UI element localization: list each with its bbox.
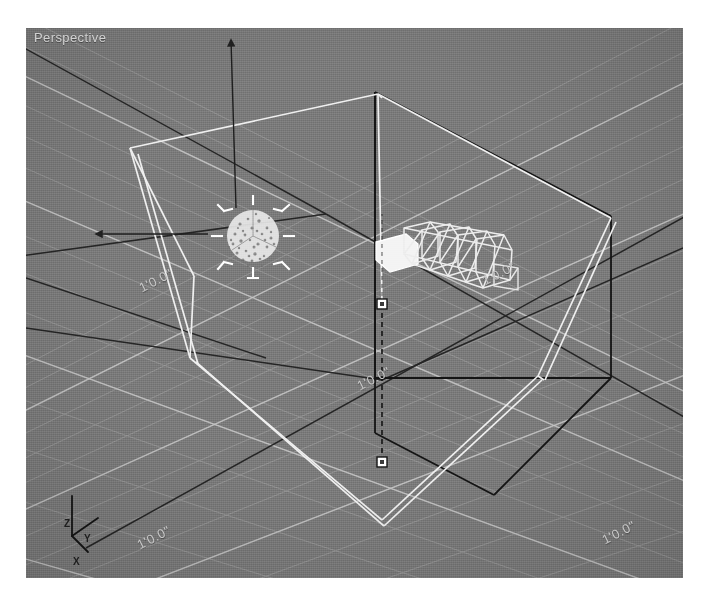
ground-grid xyxy=(26,28,683,578)
axis-label-x: X xyxy=(73,556,80,567)
perspective-viewport[interactable]: Perspective 1'0.0" 1'0.0" 1'0.0" 1'0.0" … xyxy=(26,28,683,578)
viewport-label[interactable]: Perspective xyxy=(34,30,106,45)
viewport-canvas[interactable] xyxy=(26,28,683,578)
move-gizmo[interactable] xyxy=(96,40,236,234)
pivot-handle-lower[interactable] xyxy=(377,457,387,467)
axis-label-y: Y xyxy=(84,533,91,544)
screenshot-root: Perspective 1'0.0" 1'0.0" 1'0.0" 1'0.0" … xyxy=(0,0,702,607)
pivot-handle-upper[interactable] xyxy=(377,299,387,309)
axis-label-z: Z xyxy=(64,518,70,529)
gizmo-axis-up xyxy=(231,40,236,208)
particle-emitter-sphere[interactable] xyxy=(227,210,279,267)
